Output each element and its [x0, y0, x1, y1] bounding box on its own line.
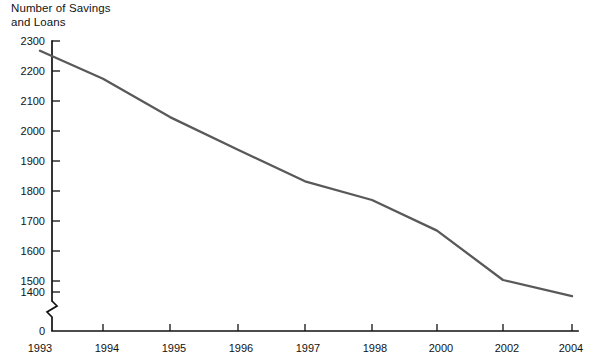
x-tick-label-1994: 1994: [95, 342, 119, 354]
y-tick-label-1600: 1600: [21, 245, 45, 257]
x-tick-label-1993: 1993: [28, 342, 52, 354]
x-tick-label-1998: 1998: [363, 342, 387, 354]
y-tick-label-1800: 1800: [21, 185, 45, 197]
y-tick-label-2100: 2100: [21, 95, 45, 107]
y-tick-label-1900: 1900: [21, 155, 45, 167]
x-tick-label-1995: 1995: [162, 342, 186, 354]
y-tick-label-2300: 2300: [21, 35, 45, 47]
chart-container: Number of Savingsand Loans 2300 2200 210…: [0, 0, 590, 364]
y-axis-break-symbol: [47, 301, 57, 331]
y-tick-label-2200: 2200: [21, 65, 45, 77]
y-axis-tick-labels: 2300 2200 2100 2000 1900 1800 1700 1600 …: [21, 35, 45, 337]
y-axis-tick-marks: [52, 41, 60, 292]
x-axis-tick-marks: [103, 324, 572, 331]
x-tick-label-2004: 2004: [559, 342, 583, 354]
x-axis-tick-labels: 1993 1994 1995 1996 1997 1998 2000 2002 …: [28, 342, 583, 354]
x-tick-label-1996: 1996: [229, 342, 253, 354]
y-tick-label-1700: 1700: [21, 215, 45, 227]
data-series-line: [40, 51, 572, 296]
y-tick-label-0: 0: [39, 325, 45, 337]
x-tick-label-2000: 2000: [429, 342, 453, 354]
y-tick-label-2000: 2000: [21, 125, 45, 137]
line-chart-plot: 2300 2200 2100 2000 1900 1800 1700 1600 …: [0, 0, 590, 364]
x-tick-label-2002: 2002: [495, 342, 519, 354]
y-tick-label-1400: 1400: [21, 286, 45, 298]
x-tick-label-1997: 1997: [296, 342, 320, 354]
